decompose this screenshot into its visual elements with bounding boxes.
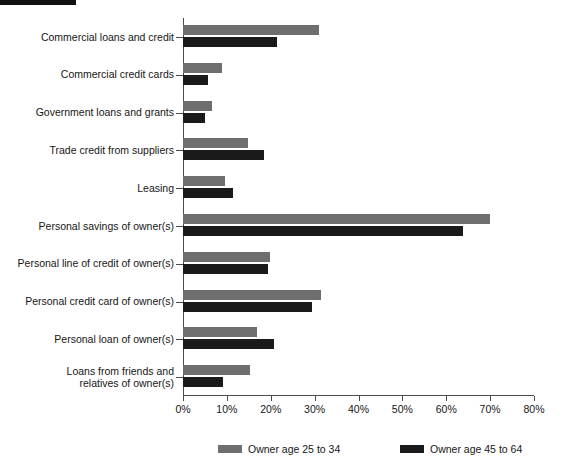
legend-item-0: Owner age 25 to 34 (218, 443, 340, 455)
legend-swatch-icon (218, 445, 242, 453)
y-axis-label: Commercial credit cards (0, 56, 174, 94)
bar-series-1 (183, 113, 205, 123)
bar-series-0 (183, 138, 248, 148)
bar-series-0 (183, 252, 270, 262)
bar-group (183, 169, 534, 207)
y-axis-label: Trade credit from suppliers (0, 131, 174, 169)
legend-label: Owner age 45 to 64 (430, 443, 522, 455)
x-axis-tick-label: 30% (295, 403, 335, 415)
grouped-bar-chart: Commercial loans and creditCommercial cr… (0, 0, 573, 476)
bar-series-0 (183, 25, 319, 35)
x-axis-tick (315, 396, 316, 401)
bar-series-1 (183, 264, 268, 274)
bar-series-0 (183, 176, 225, 186)
y-axis-label: Personal loan of owner(s) (0, 320, 174, 358)
bar-series-1 (183, 302, 312, 312)
bar-series-1 (183, 377, 223, 387)
bar-group (183, 320, 534, 358)
y-axis-label-text: Commercial credit cards (4, 68, 174, 81)
bar-series-0 (183, 214, 490, 224)
legend-swatch-icon (400, 445, 424, 453)
y-axis-label-text: Personal credit card of owner(s) (4, 295, 174, 308)
bar-group (183, 245, 534, 283)
x-axis-tick (534, 396, 535, 401)
x-axis-tick-label: 0% (163, 403, 203, 415)
y-axis-label: Commercial loans and credit (0, 18, 174, 56)
x-axis-tick (183, 396, 184, 401)
y-axis-label-text: Government loans and grants (4, 106, 174, 119)
bar-series-0 (183, 63, 222, 73)
y-axis-label-text: Loans from friends and relatives of owne… (4, 365, 174, 390)
x-axis-tick (490, 396, 491, 401)
bar-group (183, 131, 534, 169)
x-axis-tick (271, 396, 272, 401)
x-axis-tick (227, 396, 228, 401)
bar-series-0 (183, 365, 250, 375)
y-axis-label: Leasing (0, 169, 174, 207)
bar-group (183, 207, 534, 245)
legend-label: Owner age 25 to 34 (248, 443, 340, 455)
y-axis-label-text: Leasing (4, 182, 174, 195)
x-axis-tick-label: 80% (514, 403, 554, 415)
bar-group (183, 358, 534, 396)
y-axis-labels: Commercial loans and creditCommercial cr… (0, 18, 174, 396)
x-axis-tick (402, 396, 403, 401)
x-axis-tick (446, 396, 447, 401)
bar-group (183, 94, 534, 132)
y-axis-label: Personal credit card of owner(s) (0, 283, 174, 321)
bar-series-1 (183, 75, 208, 85)
bar-series-0 (183, 101, 212, 111)
x-axis-tick (359, 396, 360, 401)
y-axis-label: Government loans and grants (0, 94, 174, 132)
bar-series-1 (183, 226, 463, 236)
x-axis-tick-label: 20% (251, 403, 291, 415)
legend-item-1: Owner age 45 to 64 (400, 443, 522, 455)
y-axis-label-text: Commercial loans and credit (4, 31, 174, 44)
bar-series-1 (183, 188, 233, 198)
y-axis-label: Personal savings of owner(s) (0, 207, 174, 245)
bar-series-0 (183, 327, 257, 337)
bar-series-1 (183, 150, 264, 160)
x-axis-tick-label: 60% (426, 403, 466, 415)
y-axis-label: Personal line of credit of owner(s) (0, 245, 174, 283)
y-axis-label-text: Personal loan of owner(s) (4, 333, 174, 346)
y-axis-label-text: Personal savings of owner(s) (4, 220, 174, 233)
bar-group (183, 56, 534, 94)
y-axis-label: Loans from friends and relatives of owne… (0, 358, 174, 396)
bar-group (183, 18, 534, 56)
x-axis-tick-label: 50% (382, 403, 422, 415)
y-axis-label-text: Personal line of credit of owner(s) (4, 257, 174, 270)
bar-group (183, 283, 534, 321)
bar-series-1 (183, 37, 277, 47)
plot-area (183, 18, 534, 396)
y-axis-label-text: Trade credit from suppliers (4, 144, 174, 157)
x-axis-tick-label: 70% (470, 403, 510, 415)
bar-series-0 (183, 290, 321, 300)
bar-series-1 (183, 339, 274, 349)
x-axis-tick-label: 10% (207, 403, 247, 415)
x-axis-tick-label: 40% (339, 403, 379, 415)
chart-legend: Owner age 25 to 34Owner age 45 to 64 (0, 443, 573, 459)
